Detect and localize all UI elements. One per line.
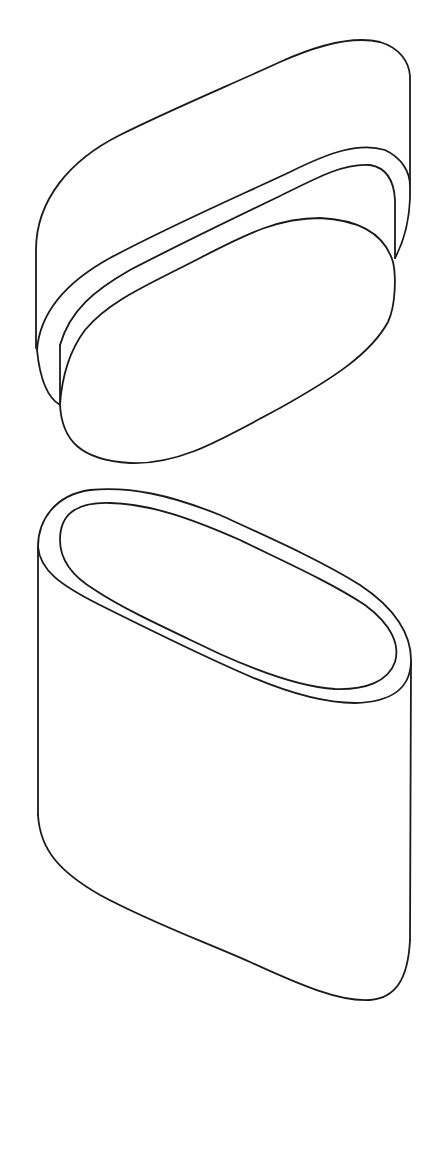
lid-flange-top-edge <box>37 147 410 350</box>
lid-flange-bottom-edge <box>37 350 60 405</box>
rim-inner-edge <box>60 503 396 689</box>
rim-outer-edge <box>38 489 411 703</box>
base-edge <box>38 815 410 1000</box>
lid <box>36 40 410 463</box>
product-drawing <box>0 0 439 1153</box>
lid-insert-bottom-face <box>60 218 395 463</box>
lid-top-outline <box>36 40 410 348</box>
side-wall-right-edge <box>410 662 411 940</box>
container-body <box>38 489 411 1000</box>
lid-insert-top-edge <box>60 165 395 345</box>
